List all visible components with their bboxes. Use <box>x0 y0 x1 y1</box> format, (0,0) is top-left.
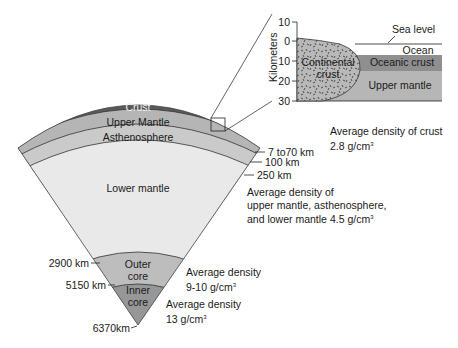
inset-upper-mantle-label: Upper mantle <box>368 79 431 91</box>
inset-tick-10-above: 10 <box>278 16 290 28</box>
earth-layers-diagram: Crust Upper Mantle Asthenosphere Lower m… <box>0 0 458 348</box>
lower-mantle-label: Lower mantle <box>106 182 169 194</box>
mantle-density-line2: upper mantle, asthenosphere, <box>247 199 387 212</box>
mantle-density-line1: Average density of <box>247 186 387 199</box>
upper-mantle-depth-label: 100 km <box>265 156 300 168</box>
outer-core-density-line2: 9-10 g/cm3 <box>186 279 261 294</box>
mantle-density-line3: and lower mantle 4.5 g/cm3 <box>247 211 387 226</box>
asthenosphere-depth-label: 250 km <box>257 169 292 181</box>
inset-tick-20: 20 <box>278 75 290 87</box>
ocean-label: Ocean <box>403 44 434 56</box>
center-depth-label: 6370km <box>93 322 131 334</box>
mantle-density-note: Average density of upper mantle, astheno… <box>247 186 387 226</box>
inner-core-depth-label: 5150 km <box>66 279 107 291</box>
inner-core-label-line1: Inner <box>126 284 150 296</box>
inner-core-density-note: Average density 13 g/cm3 <box>166 298 241 325</box>
inset-tick-0: 0 <box>284 35 290 47</box>
outer-core-label-line2: core <box>128 270 149 282</box>
crust-density-line1: Average density of crust <box>330 125 442 138</box>
inset-axis-label: Kilometers <box>267 32 279 82</box>
sea-level-pointer <box>388 36 395 43</box>
outer-core-depth-label: 2900 km <box>49 257 90 269</box>
outer-core-label-line1: Outer <box>125 258 152 270</box>
crust-label: Crust <box>125 101 150 113</box>
outer-core-density-note: Average density 9-10 g/cm3 <box>186 266 261 293</box>
sea-level-label: Sea level <box>392 23 435 35</box>
continental-crust-label-line2: crust <box>317 68 340 80</box>
inset-tick-10: 10 <box>278 55 290 67</box>
inner-core-label-line2: core <box>128 296 149 308</box>
upper-mantle-label: Upper Mantle <box>106 116 169 128</box>
outer-core-density-line1: Average density <box>186 266 261 279</box>
asthenosphere-label: Asthenosphere <box>103 131 174 143</box>
crust-density-line2: 2.8 g/cm3 <box>330 138 442 153</box>
crust-inset: 10 0 10 20 30 Kilometers Continental cru… <box>267 16 442 107</box>
inner-core-density-line2: 13 g/cm3 <box>166 311 241 326</box>
continental-crust-label-line1: Continental <box>301 56 354 68</box>
crust-density-note: Average density of crust 2.8 g/cm3 <box>330 125 442 152</box>
inset-tick-30: 30 <box>278 95 290 107</box>
earth-wedge <box>0 0 300 348</box>
inner-core-density-line1: Average density <box>166 298 241 311</box>
oceanic-crust-label: Oceanic crust <box>370 56 434 68</box>
